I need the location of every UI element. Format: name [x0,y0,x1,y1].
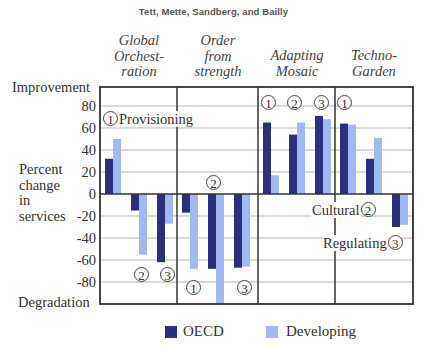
bar-developing [323,119,331,194]
circled-number-2: 2 [287,95,302,110]
bar-developing [297,123,305,195]
bar-oecd [289,135,297,194]
bar-oecd [392,194,400,227]
legend-item-oecd: OECD [165,323,224,340]
annotation-provisioning-label: Provisioning [118,111,195,127]
legend-label-developing: Developing [286,323,356,340]
bar-chart-plot [0,0,427,348]
annotation-cultural-label: Cultural [311,202,361,218]
circled-number-3: 3 [388,235,403,250]
circled-number-1: 1 [103,111,118,126]
annotation-regulating: Regulating3 [322,235,403,252]
circled-number-3: 3 [314,95,329,110]
bar-developing [242,194,250,267]
legend-label-oecd: OECD [183,323,224,340]
bar-oecd [315,116,323,194]
bar-developing [113,139,121,194]
bar-developing [348,125,356,194]
bar-oecd [182,194,190,213]
bar-developing [165,194,173,224]
circled-number-1: 1 [261,95,276,110]
bar-developing [271,175,279,194]
bar-developing [216,194,224,304]
circled-number-2: 2 [361,202,376,217]
legend-swatch-oecd [165,326,177,338]
bar-oecd [208,194,216,269]
bar-developing [400,194,408,225]
circled-number-2: 2 [134,267,149,282]
bar-oecd [105,159,113,194]
circled-number-2: 2 [206,175,221,190]
annotation-provisioning: 1Provisioning [103,111,195,128]
bar-developing [374,138,382,194]
circled-number-3: 3 [237,280,252,295]
annotation-regulating-label: Regulating [322,235,388,251]
legend-swatch-developing [266,326,278,338]
annotation-cultural: Cultural2 [311,202,376,219]
circled-number-3: 3 [160,267,175,282]
bar-oecd [366,159,374,194]
circled-number-1: 1 [186,280,201,295]
bar-oecd [234,194,242,268]
circled-number-1: 1 [337,95,352,110]
bar-oecd [131,194,139,211]
bar-oecd [157,194,165,262]
bar-oecd [263,123,271,195]
bar-developing [190,194,198,269]
bar-developing [139,194,147,255]
legend-item-developing: Developing [266,323,356,340]
bar-oecd [340,124,348,194]
